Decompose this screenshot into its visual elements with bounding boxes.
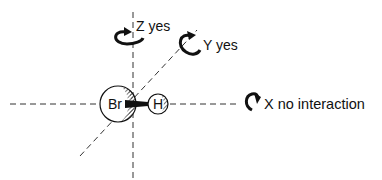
x-rotation-arrow-icon — [246, 93, 261, 110]
y-axis-line — [80, 30, 197, 156]
hbr-rotation-diagram — [0, 0, 382, 180]
y-rotation-arrow-icon — [180, 31, 200, 54]
x-axis-label: X no interaction — [264, 97, 365, 112]
br-h-bond — [125, 100, 148, 108]
z-axis-label: Z yes — [136, 19, 170, 33]
h-atom-label: H — [153, 97, 163, 111]
y-axis-label: Y yes — [203, 38, 238, 52]
br-atom-label: Br — [108, 97, 122, 111]
